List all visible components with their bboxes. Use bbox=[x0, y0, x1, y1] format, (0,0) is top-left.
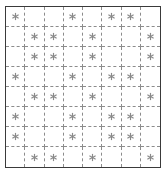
grid-cell bbox=[122, 47, 141, 67]
grid-cell bbox=[64, 127, 83, 147]
grid-cell bbox=[141, 107, 160, 127]
asterisk-icon bbox=[126, 132, 135, 141]
grid-cell bbox=[102, 87, 121, 107]
asterisk-icon bbox=[68, 12, 77, 21]
asterisk-icon bbox=[146, 52, 155, 61]
grid-cell bbox=[64, 67, 83, 87]
grid-cell bbox=[64, 87, 83, 107]
grid-cell bbox=[45, 147, 64, 167]
asterisk-icon bbox=[30, 153, 39, 162]
grid-cell bbox=[83, 107, 102, 127]
grid-cell bbox=[45, 87, 64, 107]
grid-cell bbox=[25, 87, 44, 107]
grid-cell bbox=[45, 27, 64, 47]
asterisk-icon bbox=[88, 92, 97, 101]
grid-cell bbox=[6, 147, 25, 167]
grid-cell bbox=[64, 107, 83, 127]
asterisk-icon bbox=[68, 132, 77, 141]
grid-cell bbox=[102, 107, 121, 127]
grid-cell bbox=[83, 7, 102, 27]
grid-cell bbox=[25, 67, 44, 87]
grid-cell bbox=[141, 47, 160, 67]
asterisk-icon bbox=[146, 92, 155, 101]
asterisk-icon bbox=[107, 12, 116, 21]
asterisk-icon bbox=[146, 153, 155, 162]
grid-cell bbox=[141, 87, 160, 107]
grid-cell bbox=[102, 67, 121, 87]
grid-cell bbox=[64, 47, 83, 67]
asterisk-icon bbox=[30, 92, 39, 101]
asterisk-icon bbox=[11, 72, 20, 81]
grid-cell bbox=[102, 47, 121, 67]
asterisk-icon bbox=[11, 132, 20, 141]
grid-cell bbox=[102, 27, 121, 47]
asterisk-icon bbox=[30, 52, 39, 61]
grid-cell bbox=[45, 67, 64, 87]
grid-cell bbox=[122, 87, 141, 107]
grid-cell bbox=[141, 67, 160, 87]
grid-cell bbox=[64, 7, 83, 27]
asterisk-icon bbox=[88, 153, 97, 162]
asterisk-icon bbox=[11, 112, 20, 121]
grid-cell bbox=[122, 147, 141, 167]
asterisk-icon bbox=[146, 32, 155, 41]
grid-cell bbox=[83, 147, 102, 167]
grid-cell bbox=[122, 127, 141, 147]
asterisk-icon bbox=[107, 72, 116, 81]
grid-cell bbox=[6, 67, 25, 87]
asterisk-icon bbox=[49, 92, 58, 101]
asterisk-icon bbox=[30, 32, 39, 41]
grid-cell bbox=[45, 7, 64, 27]
grid-cell bbox=[64, 27, 83, 47]
grid-cell bbox=[6, 107, 25, 127]
asterisk-icon bbox=[49, 153, 58, 162]
asterisk-icon bbox=[49, 32, 58, 41]
grid-cell bbox=[6, 127, 25, 147]
grid-cell bbox=[122, 67, 141, 87]
grid-cell bbox=[83, 127, 102, 147]
asterisk-icon bbox=[88, 32, 97, 41]
grid-cell bbox=[102, 147, 121, 167]
figure-canvas bbox=[0, 0, 166, 174]
asterisk-icon bbox=[68, 72, 77, 81]
grid-cell bbox=[141, 7, 160, 27]
grid-cell bbox=[83, 87, 102, 107]
grid-cell bbox=[25, 127, 44, 147]
grid-cell bbox=[45, 47, 64, 67]
grid-cell bbox=[25, 147, 44, 167]
asterisk-icon bbox=[107, 112, 116, 121]
grid-cell bbox=[141, 127, 160, 147]
grid-cell bbox=[25, 7, 44, 27]
asterisk-icon bbox=[126, 12, 135, 21]
grid-cell bbox=[122, 107, 141, 127]
grid-cell bbox=[25, 27, 44, 47]
asterisk-icon bbox=[88, 52, 97, 61]
grid-cell bbox=[122, 7, 141, 27]
asterisk-icon bbox=[11, 12, 20, 21]
grid-cell bbox=[6, 47, 25, 67]
asterisk-icon bbox=[49, 52, 58, 61]
grid-cell bbox=[122, 27, 141, 47]
asterisk-grid bbox=[5, 6, 161, 168]
grid-cell bbox=[83, 67, 102, 87]
asterisk-icon bbox=[107, 132, 116, 141]
grid-cell bbox=[102, 7, 121, 27]
grid-cell bbox=[25, 47, 44, 67]
grid-cell bbox=[6, 27, 25, 47]
asterisk-icon bbox=[68, 112, 77, 121]
grid-cell bbox=[141, 147, 160, 167]
asterisk-icon bbox=[126, 72, 135, 81]
grid-cell bbox=[45, 127, 64, 147]
grid-cell bbox=[83, 27, 102, 47]
grid-cell bbox=[141, 27, 160, 47]
asterisk-icon bbox=[126, 112, 135, 121]
grid-cell bbox=[64, 147, 83, 167]
grid-cell bbox=[25, 107, 44, 127]
grid-cell bbox=[6, 87, 25, 107]
grid-cell bbox=[102, 127, 121, 147]
grid-cell bbox=[83, 47, 102, 67]
grid-cell bbox=[6, 7, 25, 27]
grid-cell bbox=[45, 107, 64, 127]
